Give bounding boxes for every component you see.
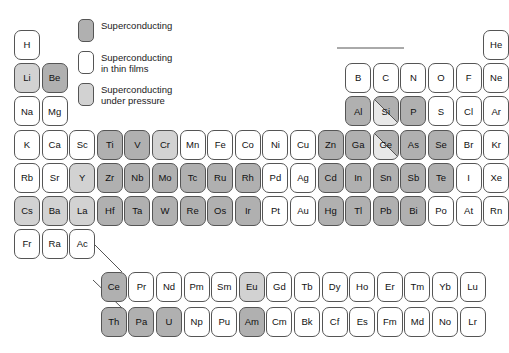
element-cell-co[interactable]: Co	[235, 130, 261, 160]
element-cell-ag[interactable]: Ag	[290, 163, 316, 193]
element-cell-bk[interactable]: Bk	[294, 307, 320, 337]
element-cell-nd[interactable]: Nd	[156, 272, 182, 302]
element-cell-br[interactable]: Br	[456, 130, 482, 160]
element-cell-k[interactable]: K	[14, 130, 40, 160]
element-cell-gd[interactable]: Gd	[266, 272, 292, 302]
element-cell-si[interactable]: Si	[373, 96, 399, 126]
element-cell-am[interactable]: Am	[239, 307, 265, 337]
element-cell-fe[interactable]: Fe	[207, 130, 233, 160]
element-cell-o[interactable]: O	[428, 63, 454, 93]
element-cell-sr[interactable]: Sr	[42, 163, 68, 193]
element-cell-ta[interactable]: Ta	[124, 196, 150, 226]
element-cell-ni[interactable]: Ni	[262, 130, 288, 160]
element-cell-cd[interactable]: Cd	[318, 163, 344, 193]
element-cell-na[interactable]: Na	[14, 96, 40, 126]
element-cell-ge[interactable]: Ge	[373, 130, 399, 160]
element-cell-f[interactable]: F	[456, 63, 482, 93]
element-cell-ga[interactable]: Ga	[345, 130, 371, 160]
element-cell-cr[interactable]: Cr	[152, 130, 178, 160]
element-cell-cf[interactable]: Cf	[322, 307, 348, 337]
element-cell-ra[interactable]: Ra	[42, 229, 68, 259]
element-cell-ne[interactable]: Ne	[483, 63, 509, 93]
element-cell-li[interactable]: Li	[14, 63, 40, 93]
element-cell-la[interactable]: La	[69, 196, 95, 226]
element-cell-yb[interactable]: Yb	[432, 272, 458, 302]
element-cell-dy[interactable]: Dy	[322, 272, 348, 302]
element-cell-zn[interactable]: Zn	[318, 130, 344, 160]
element-cell-no[interactable]: No	[432, 307, 458, 337]
element-cell-se[interactable]: Se	[428, 130, 454, 160]
element-cell-be[interactable]: Be	[42, 63, 68, 93]
element-cell-v[interactable]: V	[124, 130, 150, 160]
element-cell-es[interactable]: Es	[349, 307, 375, 337]
element-cell-ca[interactable]: Ca	[42, 130, 68, 160]
element-cell-ti[interactable]: Ti	[97, 130, 123, 160]
element-cell-cl[interactable]: Cl	[456, 96, 482, 126]
element-cell-pm[interactable]: Pm	[184, 272, 210, 302]
element-cell-te[interactable]: Te	[428, 163, 454, 193]
element-cell-bi[interactable]: Bi	[400, 196, 426, 226]
element-cell-mg[interactable]: Mg	[42, 96, 68, 126]
element-cell-hg[interactable]: Hg	[318, 196, 344, 226]
element-cell-ir[interactable]: Ir	[235, 196, 261, 226]
element-cell-ru[interactable]: Ru	[207, 163, 233, 193]
element-cell-fm[interactable]: Fm	[377, 307, 403, 337]
element-cell-as[interactable]: As	[400, 130, 426, 160]
element-cell-au[interactable]: Au	[290, 196, 316, 226]
element-cell-b[interactable]: B	[345, 63, 371, 93]
element-cell-pt[interactable]: Pt	[262, 196, 288, 226]
element-cell-c[interactable]: C	[373, 63, 399, 93]
element-cell-pu[interactable]: Pu	[211, 307, 237, 337]
element-cell-zr[interactable]: Zr	[97, 163, 123, 193]
element-cell-al[interactable]: Al	[345, 96, 371, 126]
element-cell-s[interactable]: S	[428, 96, 454, 126]
element-cell-ba[interactable]: Ba	[42, 196, 68, 226]
element-cell-eu[interactable]: Eu	[239, 272, 265, 302]
element-cell-os[interactable]: Os	[207, 196, 233, 226]
element-cell-sc[interactable]: Sc	[69, 130, 95, 160]
element-cell-pb[interactable]: Pb	[373, 196, 399, 226]
element-cell-np[interactable]: Np	[184, 307, 210, 337]
element-cell-mo[interactable]: Mo	[152, 163, 178, 193]
element-cell-he[interactable]: He	[483, 30, 509, 60]
element-cell-po[interactable]: Po	[428, 196, 454, 226]
element-cell-er[interactable]: Er	[377, 272, 403, 302]
element-cell-ac[interactable]: Ac	[69, 229, 95, 259]
element-cell-w[interactable]: W	[152, 196, 178, 226]
element-cell-ho[interactable]: Ho	[349, 272, 375, 302]
element-cell-kr[interactable]: Kr	[483, 130, 509, 160]
element-cell-n[interactable]: N	[400, 63, 426, 93]
element-cell-at[interactable]: At	[456, 196, 482, 226]
element-cell-tc[interactable]: Tc	[180, 163, 206, 193]
element-cell-rn[interactable]: Rn	[483, 196, 509, 226]
element-cell-th[interactable]: Th	[101, 307, 127, 337]
element-cell-nb[interactable]: Nb	[124, 163, 150, 193]
element-cell-h[interactable]: H	[14, 30, 40, 60]
element-cell-tb[interactable]: Tb	[294, 272, 320, 302]
element-cell-mn[interactable]: Mn	[180, 130, 206, 160]
element-cell-sn[interactable]: Sn	[373, 163, 399, 193]
element-cell-pr[interactable]: Pr	[128, 272, 154, 302]
element-cell-y[interactable]: Y	[69, 163, 95, 193]
element-cell-in[interactable]: In	[345, 163, 371, 193]
element-cell-lu[interactable]: Lu	[460, 272, 486, 302]
element-cell-u[interactable]: U	[156, 307, 182, 337]
element-cell-fr[interactable]: Fr	[14, 229, 40, 259]
element-cell-rh[interactable]: Rh	[235, 163, 261, 193]
element-cell-sm[interactable]: Sm	[211, 272, 237, 302]
element-cell-cs[interactable]: Cs	[14, 196, 40, 226]
element-cell-ce[interactable]: Ce	[101, 272, 127, 302]
element-cell-tl[interactable]: Tl	[345, 196, 371, 226]
element-cell-p[interactable]: P	[400, 96, 426, 126]
element-cell-pa[interactable]: Pa	[128, 307, 154, 337]
element-cell-hf[interactable]: Hf	[97, 196, 123, 226]
element-cell-ar[interactable]: Ar	[483, 96, 509, 126]
element-cell-xe[interactable]: Xe	[483, 163, 509, 193]
element-cell-lr[interactable]: Lr	[460, 307, 486, 337]
element-cell-rb[interactable]: Rb	[14, 163, 40, 193]
element-cell-md[interactable]: Md	[404, 307, 430, 337]
element-cell-tm[interactable]: Tm	[404, 272, 430, 302]
element-cell-re[interactable]: Re	[180, 196, 206, 226]
element-cell-i[interactable]: I	[456, 163, 482, 193]
element-cell-sb[interactable]: Sb	[400, 163, 426, 193]
